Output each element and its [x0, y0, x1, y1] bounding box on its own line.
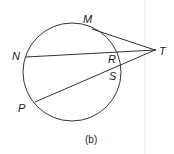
- circle-secant-tangent-diagram: M T N R S P (b): [0, 0, 174, 154]
- secant-segment-TN: [26, 50, 155, 57]
- label-N: N: [12, 50, 20, 62]
- label-S: S: [109, 70, 117, 82]
- secant-segment-TP: [35, 50, 155, 102]
- label-T: T: [159, 45, 167, 57]
- circle: [23, 23, 121, 121]
- point-T-dot: [154, 49, 156, 51]
- tangent-segment-TM: [92, 29, 155, 50]
- label-M: M: [83, 13, 93, 25]
- figure-caption: (b): [85, 134, 97, 145]
- label-R: R: [108, 53, 116, 65]
- label-P: P: [18, 102, 26, 114]
